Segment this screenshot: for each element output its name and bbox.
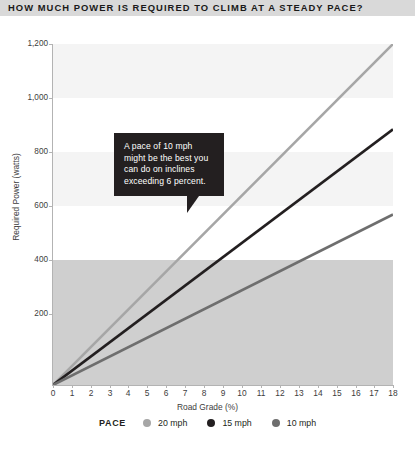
x-ticklabel-18: 18: [383, 388, 403, 399]
chart-container: 1,200 1,000 800 600 400 200 Required Pow…: [0, 16, 415, 465]
x-ticklabel-12: 12: [270, 388, 290, 399]
x-ticklabel-15: 15: [327, 388, 347, 399]
series-line-10mph: [53, 215, 393, 386]
series-lines: [53, 44, 393, 385]
callout-annotation: A pace of 10 mph might be the best you c…: [114, 133, 224, 196]
x-ticklabel-17: 17: [364, 388, 384, 399]
chart-legend: PACE 20 mph 15 mph 10 mph: [0, 418, 415, 428]
y-ticklabel-800: 800: [0, 147, 48, 157]
legend-swatch-10mph: [272, 419, 280, 427]
y-ticklabel-600: 600: [0, 201, 48, 211]
x-ticklabel-4: 4: [118, 388, 138, 399]
y-ticklabel-400: 400: [0, 255, 48, 265]
y-tickmark-200: [49, 314, 53, 315]
y-tickmark-1200: [49, 44, 53, 45]
x-ticklabel-6: 6: [156, 388, 176, 399]
legend-label-10mph: 10 mph: [287, 418, 316, 428]
x-ticklabel-11: 11: [251, 388, 271, 399]
page-title: HOW MUCH POWER IS REQUIRED TO CLIMB AT A…: [8, 2, 363, 14]
x-ticklabel-0: 0: [43, 388, 63, 399]
x-ticklabel-13: 13: [289, 388, 309, 399]
legend-item-20mph[interactable]: 20 mph: [143, 418, 187, 428]
x-ticklabel-2: 2: [81, 388, 101, 399]
y-axis-line: [52, 44, 53, 385]
legend-label-15mph: 15 mph: [222, 418, 251, 428]
series-line-20mph: [53, 44, 393, 385]
x-axis-title: Road Grade (%): [0, 402, 415, 412]
legend-swatch-15mph: [207, 419, 215, 427]
y-ticklabel-1000: 1,000: [0, 93, 48, 103]
legend-title: PACE: [99, 418, 126, 428]
x-ticklabel-1: 1: [62, 388, 82, 399]
y-axis-title: Required Power (watts): [11, 117, 21, 277]
x-ticklabel-10: 10: [232, 388, 252, 399]
y-tickmark-1000: [49, 98, 53, 99]
y-ticklabel-200: 200: [0, 309, 48, 319]
x-ticklabel-16: 16: [346, 388, 366, 399]
legend-label-20mph: 20 mph: [158, 418, 187, 428]
x-ticklabel-14: 14: [308, 388, 328, 399]
y-tickmark-600: [49, 206, 53, 207]
y-tickmark-800: [49, 152, 53, 153]
legend-swatch-20mph: [143, 419, 151, 427]
y-tickmark-400: [49, 260, 53, 261]
y-ticklabel-1200: 1,200: [0, 39, 48, 49]
callout-tail-icon: [187, 196, 199, 213]
x-axis-ticklabels: 0 1 2 3 4 5 6 7 8 9 10 11 12 13 14 15 16…: [0, 388, 415, 402]
callout-text: A pace of 10 mph might be the best you c…: [114, 133, 224, 196]
x-ticklabel-8: 8: [194, 388, 214, 399]
x-ticklabel-9: 9: [213, 388, 233, 399]
legend-item-15mph[interactable]: 15 mph: [207, 418, 251, 428]
x-ticklabel-3: 3: [100, 388, 120, 399]
plot-area: [53, 44, 393, 385]
x-ticklabel-5: 5: [137, 388, 157, 399]
legend-item-10mph[interactable]: 10 mph: [272, 418, 316, 428]
x-ticklabel-7: 7: [175, 388, 195, 399]
